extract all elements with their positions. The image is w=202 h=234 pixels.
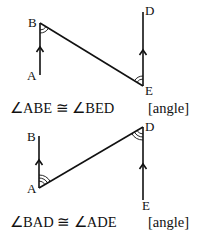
angle-mark-bad-1 [39, 181, 45, 185]
point-label-e-2: E [142, 198, 150, 213]
angle-mark-abe-1 [40, 27, 46, 30]
reason-2: [angle] [148, 214, 189, 231]
angle-mark-bed-1 [137, 79, 143, 82]
point-label-a-1: A [27, 68, 37, 83]
point-label-b-1: B [28, 15, 37, 30]
point-label-d-1: D [145, 3, 154, 18]
transversal-ad [39, 127, 143, 188]
diagram-canvas: B A D E B A D E [0, 0, 202, 234]
point-label-d-2: D [145, 119, 154, 134]
transversal-be [40, 23, 143, 86]
point-label-e-1: E [145, 83, 153, 98]
point-label-a-2: A [27, 181, 37, 196]
angle-mark-ade-1 [137, 131, 143, 135]
point-label-b-2: B [27, 129, 36, 144]
figure-2 [36, 127, 147, 200]
statement-2: ∠BAD ≅ ∠ADE [10, 214, 117, 231]
figure-1 [37, 12, 147, 86]
statement-1: ∠ABE ≅ ∠BED [10, 100, 114, 117]
reason-1: [angle] [148, 100, 189, 117]
